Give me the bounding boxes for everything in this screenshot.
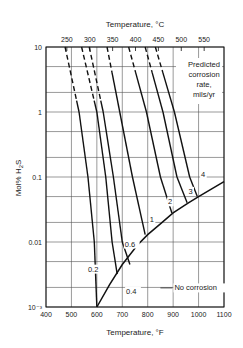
x2-tick-label: 300 xyxy=(84,36,96,43)
annotation-line: Predicted xyxy=(188,60,220,69)
corrosion-rate-line-4 xyxy=(174,112,189,177)
corrosion-rate-line-1 xyxy=(120,112,133,177)
x2-axis-title: Temperature, °C xyxy=(106,20,165,29)
series-label: 2 xyxy=(168,197,172,206)
x2-tick-label: 450 xyxy=(153,36,165,43)
corrosion-rate-line-2 xyxy=(160,177,171,213)
x-tick-label: 400 xyxy=(40,311,52,318)
x-tick-label: 900 xyxy=(167,311,179,318)
x2-tick-label: 250 xyxy=(61,36,73,43)
corrosion-rate-line-3 xyxy=(145,47,152,73)
y-tick-label: 0.01 xyxy=(28,239,42,246)
y-axis-title: Mol% H2S xyxy=(14,160,24,197)
corrosion-rate-line-3 xyxy=(163,112,177,177)
series-label: 1 xyxy=(150,215,154,224)
corrosion-rate-line-2 xyxy=(129,47,136,73)
annotation-line: mils/yr xyxy=(193,90,215,99)
corrosion-rate-line-0-2 xyxy=(79,112,88,177)
corrosion-rate-line-0-4 xyxy=(106,177,112,242)
x-axis-ticks-fahrenheit: 40050060070080090010001100 xyxy=(40,311,231,318)
y-tick-label: 10⁻³ xyxy=(28,304,43,311)
corrosion-rate-line-0-4 xyxy=(112,242,117,274)
annotation-line: corrosion xyxy=(188,70,219,79)
series-label: 0.6 xyxy=(125,240,135,249)
corrosion-rate-line-0-4 xyxy=(94,101,97,112)
y-tick-label: 10 xyxy=(34,44,42,51)
annotation-line: rate, xyxy=(196,80,211,89)
x-tick-label: 800 xyxy=(142,311,154,318)
corrosion-rate-line-0-6 xyxy=(101,101,103,112)
corrosion-rate-line-4 xyxy=(155,47,163,73)
annotation-predicted-corrosion-rate: Predictedcorrosionrate,mils/yr xyxy=(176,58,222,104)
corrosion-rate-line-1 xyxy=(107,47,112,73)
corrosion-rate-line-1 xyxy=(132,177,145,235)
y-tick-label: 1 xyxy=(38,109,42,116)
y-axis-ticks: 1010.10.0110⁻³ xyxy=(28,44,43,311)
x-tick-label: 1000 xyxy=(191,311,207,318)
x-axis-title: Temperature, °F xyxy=(106,328,164,337)
x2-tick-label: 350 xyxy=(107,36,119,43)
corrosion-rate-line-3 xyxy=(177,177,187,203)
corrosion-rate-line-0-6 xyxy=(113,177,122,242)
x2-tick-label: 400 xyxy=(130,36,142,43)
corrosion-rate-line-0-2 xyxy=(94,242,97,307)
corrosion-chart: 40050060070080090010001100 2503003504004… xyxy=(0,0,243,348)
x-tick-label: 700 xyxy=(116,311,128,318)
x-axis-ticks-celsius: 250300350400450500550 xyxy=(61,36,210,51)
corrosion-rate-line-2 xyxy=(146,112,160,177)
corrosion-rate-line-0-2 xyxy=(88,177,94,242)
series-label: 3 xyxy=(188,187,192,196)
x2-tick-label: 550 xyxy=(198,36,210,43)
series-label: 4 xyxy=(201,170,205,179)
series-label: No corrosion xyxy=(174,283,217,292)
x-tick-label: 500 xyxy=(66,311,78,318)
x-tick-label: 600 xyxy=(91,311,103,318)
x2-tick-label: 500 xyxy=(175,36,187,43)
series-label: 0.4 xyxy=(126,287,136,296)
series-labels: 0.20.40.61234No corrosion xyxy=(87,170,231,296)
y-tick-label: 0.1 xyxy=(32,174,42,181)
series-label: 0.2 xyxy=(88,265,98,274)
corrosion-rate-line-0-2 xyxy=(77,101,79,112)
x-tick-label: 1100 xyxy=(216,311,231,318)
